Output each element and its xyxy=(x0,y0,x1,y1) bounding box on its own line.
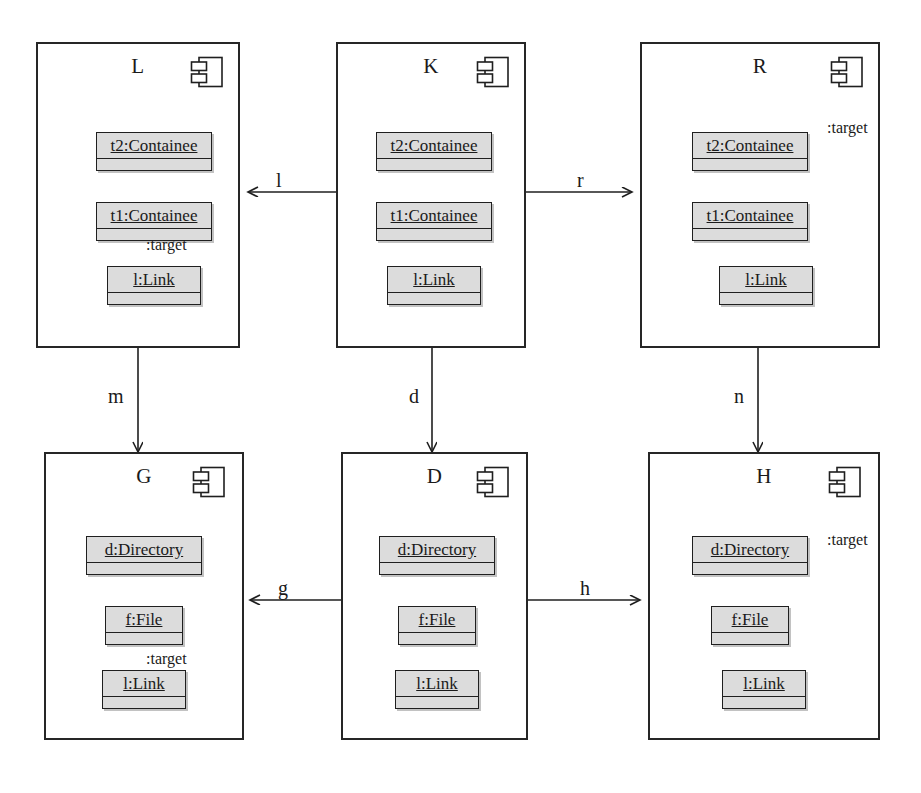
component-R[interactable]: R t2:Containee t1:Containee l:Link xyxy=(640,42,880,348)
component-H[interactable]: H d:Directory f:File l:Link xyxy=(648,452,880,740)
target-label-G: :target xyxy=(146,651,187,667)
object-label: t1:Containee xyxy=(97,203,211,229)
object-compartment xyxy=(380,563,494,574)
edge-label-r: r xyxy=(577,170,584,190)
object-compartment xyxy=(103,697,185,708)
target-label-L: :target xyxy=(146,237,187,253)
edge-label-l: l xyxy=(276,170,282,190)
object-label: d:Directory xyxy=(380,537,494,563)
object-label: f:File xyxy=(399,607,475,633)
component-D[interactable]: D d:Directory f:File l:Link xyxy=(341,452,528,740)
object-box[interactable]: t2:Containee xyxy=(376,132,492,171)
component-K[interactable]: K t2:Containee t1:Containee l:Link xyxy=(336,42,526,348)
edge-label-g: g xyxy=(278,578,288,598)
component-icon xyxy=(192,466,226,500)
object-label: t1:Containee xyxy=(377,203,491,229)
object-compartment xyxy=(723,697,805,708)
object-box[interactable]: f:File xyxy=(105,606,183,645)
object-box[interactable]: t1:Containee xyxy=(376,202,492,241)
object-compartment xyxy=(377,159,491,170)
object-box[interactable]: l:Link xyxy=(107,266,201,305)
object-compartment xyxy=(377,229,491,240)
object-box[interactable]: t1:Containee xyxy=(692,202,808,241)
object-compartment xyxy=(396,697,478,708)
object-box[interactable]: l:Link xyxy=(102,670,186,709)
object-label: t2:Containee xyxy=(377,133,491,159)
object-compartment xyxy=(693,229,807,240)
object-label: t1:Containee xyxy=(693,203,807,229)
object-box[interactable]: l:Link xyxy=(395,670,479,709)
object-compartment xyxy=(108,293,200,304)
edge-label-d: d xyxy=(409,386,419,406)
component-icon xyxy=(476,466,510,500)
object-label: l:Link xyxy=(388,267,480,293)
object-box[interactable]: l:Link xyxy=(719,266,813,305)
object-label: l:Link xyxy=(723,671,805,697)
object-compartment xyxy=(97,159,211,170)
object-box[interactable]: f:File xyxy=(711,606,789,645)
object-label: f:File xyxy=(106,607,182,633)
diagram-canvas: L t2:Containee t1:Containee l:Link :targ… xyxy=(0,0,921,793)
object-box[interactable]: t2:Containee xyxy=(96,132,212,171)
object-compartment xyxy=(693,563,807,574)
target-label-R: :target xyxy=(827,120,868,136)
object-compartment xyxy=(106,633,182,644)
object-label: l:Link xyxy=(108,267,200,293)
object-box[interactable]: d:Directory xyxy=(692,536,808,575)
object-compartment xyxy=(693,159,807,170)
edge-label-m: m xyxy=(108,386,124,406)
object-compartment xyxy=(399,633,475,644)
object-box[interactable]: l:Link xyxy=(722,670,806,709)
object-label: l:Link xyxy=(396,671,478,697)
component-L[interactable]: L t2:Containee t1:Containee l:Link xyxy=(36,42,240,348)
object-compartment xyxy=(712,633,788,644)
target-label-H: :target xyxy=(827,532,868,548)
object-box[interactable]: d:Directory xyxy=(86,536,202,575)
object-compartment xyxy=(87,563,201,574)
object-label: f:File xyxy=(712,607,788,633)
object-label: d:Directory xyxy=(693,537,807,563)
component-icon xyxy=(830,56,864,90)
component-G[interactable]: G d:Directory f:File l:Link xyxy=(44,452,244,740)
object-label: l:Link xyxy=(720,267,812,293)
component-icon xyxy=(828,466,862,500)
edge-label-n: n xyxy=(734,386,744,406)
component-icon xyxy=(476,56,510,90)
object-box[interactable]: d:Directory xyxy=(379,536,495,575)
edge-label-h: h xyxy=(580,578,590,598)
component-icon xyxy=(190,56,224,90)
object-label: t2:Containee xyxy=(97,133,211,159)
object-box[interactable]: l:Link xyxy=(387,266,481,305)
object-label: l:Link xyxy=(103,671,185,697)
object-label: d:Directory xyxy=(87,537,201,563)
object-compartment xyxy=(720,293,812,304)
object-compartment xyxy=(388,293,480,304)
object-label: t2:Containee xyxy=(693,133,807,159)
object-box[interactable]: f:File xyxy=(398,606,476,645)
object-box[interactable]: t2:Containee xyxy=(692,132,808,171)
